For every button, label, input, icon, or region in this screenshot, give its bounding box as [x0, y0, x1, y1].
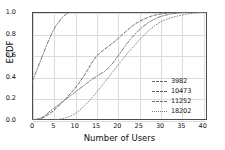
- legend-line-sample-icon: [152, 81, 167, 82]
- y-axis-label: ECDF: [5, 24, 15, 80]
- x-tick-label: 40: [191, 123, 215, 130]
- legend-line-sample-icon: [152, 101, 167, 102]
- legend-line-sample-icon: [152, 111, 167, 112]
- legend-item-10473[interactable]: 10473: [152, 86, 212, 96]
- legend-item-label: 11252: [171, 98, 191, 105]
- ecdf-chart-figure: 0.00.20.40.60.81.0 0510152025303540 Numb…: [0, 0, 225, 150]
- y-tick-label: 0.2: [0, 95, 16, 102]
- legend-item-label: 18202: [171, 108, 191, 115]
- legend-item-18202[interactable]: 18202: [152, 106, 212, 116]
- legend: 3982104731125218202: [152, 76, 212, 116]
- legend-line-sample-icon: [152, 91, 167, 92]
- y-tick-label: 1.0: [0, 9, 16, 16]
- series-line-3982: [32, 12, 207, 82]
- legend-item-label: 10473: [171, 88, 191, 95]
- legend-item-11252[interactable]: 11252: [152, 96, 212, 106]
- legend-item-3982[interactable]: 3982: [152, 76, 212, 86]
- legend-item-label: 3982: [171, 78, 187, 85]
- x-axis-label: Number of Users: [32, 133, 207, 143]
- y-tick-label: 0.0: [0, 117, 16, 124]
